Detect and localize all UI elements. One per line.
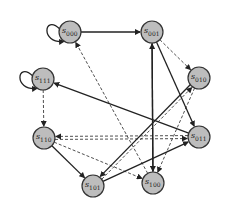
edge-s001-to-s100 [152, 43, 153, 171]
edge-s100-to-s000 [76, 43, 148, 174]
edge-s111-to-s110 [43, 90, 44, 126]
state-node-s000: s000 [59, 21, 81, 43]
state-node-s101: s101 [82, 175, 104, 197]
state-node-s010: s010 [188, 67, 210, 89]
edge-s110-to-s011 [55, 139, 187, 140]
edge-s011-to-s110 [56, 136, 188, 137]
state-node-s011: s011 [188, 126, 210, 148]
edge-s101-to-s010 [102, 88, 192, 180]
edge-s011-to-s111 [54, 83, 188, 133]
diagram-canvas: s000s001s010s011s100s101s110s111 [0, 0, 230, 218]
state-node-s111: s111 [32, 68, 54, 90]
state-transition-diagram: s000s001s010s011s100s101s110s111 [0, 0, 230, 218]
state-node-s100: s100 [142, 172, 164, 194]
edge-s001-to-s010 [160, 40, 191, 70]
edge-s110-to-s101 [52, 146, 85, 178]
state-node-s001: s001 [141, 21, 163, 43]
edges-layer [20, 25, 195, 182]
edge-s010-to-s100 [158, 88, 195, 172]
nodes-layer: s000s001s010s011s100s101s110s111 [32, 21, 210, 197]
edge-s010-to-s101 [100, 85, 190, 177]
state-node-s110: s110 [33, 127, 55, 149]
